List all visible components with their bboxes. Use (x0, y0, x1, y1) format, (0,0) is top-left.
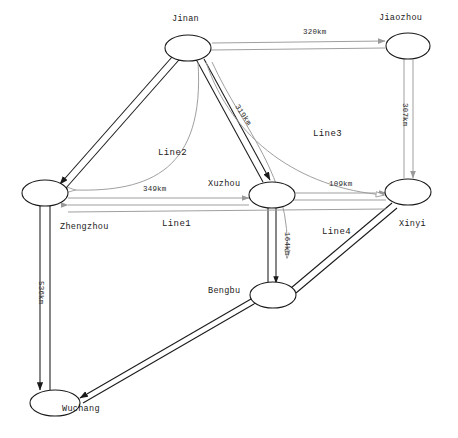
edge-bengbu-wuchang-b (83, 304, 254, 403)
edge-bengbu-xinyi-a (291, 203, 392, 288)
node-label-xuzhou: Xuzhou (208, 179, 240, 189)
edge-jinan-jiaozhou-b (212, 48, 385, 50)
node-jinan[interactable] (165, 35, 211, 61)
line-label-line2: Line2 (158, 148, 187, 158)
node-xinyi[interactable] (385, 179, 431, 205)
distance-label-zhengzhou-xuzhou: 349km (143, 185, 167, 193)
edge-bengbu-wuchang-a (80, 299, 251, 398)
curve-line3 (206, 62, 384, 195)
node-xuzhou[interactable] (249, 182, 295, 208)
edge-group-light (68, 41, 413, 258)
edge-jinan-zhengzhou-b (66, 61, 178, 188)
edge-jinan-zhengzhou-a (60, 57, 172, 184)
node-label-jiaozhou: Jiaozhou (379, 13, 422, 23)
distance-label-xuzhou-bengbu: 164km (283, 232, 291, 256)
edge-zhengzhou-xinyi-line1 (68, 209, 386, 212)
railway-network-diagram: Jinan Jiaozhou Zhengzhou Xuzhou Xinyi Be… (0, 0, 458, 438)
edge-jinan-xuzhou-a (197, 61, 263, 182)
line-label-line3: Line3 (313, 129, 342, 139)
node-zhengzhou[interactable] (22, 180, 68, 206)
network-edges-layer (0, 0, 458, 438)
node-jiaozhou[interactable] (386, 33, 430, 59)
node-label-xinyi: Xinyi (399, 219, 426, 229)
line-label-line1: Line1 (162, 219, 191, 229)
distance-label-jinan-jiaozhou: 320km (303, 28, 327, 36)
edge-bengbu-xinyi-b (296, 208, 397, 293)
line-label-line4: Line4 (322, 227, 351, 237)
node-bengbu[interactable] (250, 282, 296, 308)
edge-jinan-jiaozhou-a (212, 41, 385, 43)
distance-label-zhengzhou-wuchang: 536km (37, 281, 45, 305)
node-label-jinan: Jinan (172, 14, 199, 24)
curve-line2 (75, 62, 199, 190)
node-label-zhengzhou: Zhengzhou (60, 222, 109, 232)
distance-label-xuzhou-xinyi: 109km (329, 180, 353, 188)
distance-label-jiaozhou-xinyi: 307km (401, 103, 409, 127)
node-label-wuchang: Wuchang (62, 404, 100, 414)
node-label-bengbu: Bengbu (208, 286, 240, 296)
